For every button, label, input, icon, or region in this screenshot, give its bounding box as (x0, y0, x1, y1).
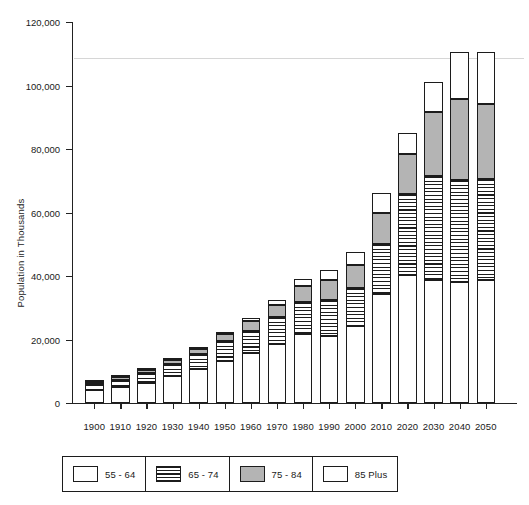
legend-label: 55 - 64 (105, 469, 135, 480)
bar-segment-1990-55-64 (320, 336, 339, 403)
x-tick-label: 1910 (110, 421, 132, 432)
plot-area: 020,00040,00060,00080,000100,000120,000 … (72, 22, 517, 403)
x-tick-label: 2010 (371, 421, 393, 432)
bar-2020 (398, 133, 417, 403)
y-tick (66, 22, 72, 23)
bar-segment-2000-65-74 (346, 288, 365, 326)
bar-segment-1940-65-74 (189, 354, 208, 369)
bar-segment-2000-55-64 (346, 326, 365, 403)
x-tick-label: 1900 (83, 421, 105, 432)
bar-segment-1990-85Plus (320, 270, 339, 280)
bar-segment-2030-55-64 (424, 280, 443, 403)
x-tick-label: 2050 (475, 421, 497, 432)
legend-swatch-icon (240, 466, 265, 482)
bar-segment-1970-55-64 (268, 344, 287, 403)
bar-segment-2000-85Plus (346, 252, 365, 265)
x-tick (381, 403, 382, 409)
bar-segment-1900-55-64 (85, 390, 104, 403)
bar-1940 (189, 347, 208, 403)
bar-segment-1910-85Plus (111, 375, 130, 377)
bar-1960 (242, 318, 261, 403)
legend-item-85Plus[interactable]: 85 Plus (313, 457, 397, 491)
legend-item-75-84[interactable]: 75 - 84 (230, 457, 313, 491)
bar-segment-1950-55-64 (216, 361, 235, 403)
x-tick (460, 403, 461, 409)
bar-segment-2000-75-84 (346, 265, 365, 288)
x-tick (486, 403, 487, 409)
bar-segment-2020-85Plus (398, 133, 417, 155)
x-tick-label: 1970 (266, 421, 288, 432)
bar-1910 (111, 376, 130, 403)
x-tick-label: 1980 (292, 421, 314, 432)
bar-segment-1920-75-84 (137, 370, 156, 373)
x-tick (199, 403, 200, 409)
chart-root: 020,00040,00060,00080,000100,000120,000 … (0, 0, 529, 505)
bar-segment-1900-85Plus (85, 380, 104, 382)
bar-segment-1930-55-64 (163, 376, 182, 403)
bar-segment-2010-85Plus (372, 193, 391, 212)
x-tick (120, 403, 121, 409)
x-tick (277, 403, 278, 409)
bar-segment-2020-65-74 (398, 194, 417, 275)
y-tick (66, 213, 72, 214)
legend-swatch-icon (73, 466, 98, 482)
bar-segment-1930-65-74 (163, 364, 182, 376)
x-tick-label: 1960 (240, 421, 262, 432)
y-tick-label: 20,000 (31, 334, 60, 345)
bar-1980 (294, 279, 313, 403)
bar-1900 (85, 381, 104, 403)
legend-label: 65 - 74 (188, 469, 218, 480)
bar-segment-2050-75-84 (477, 104, 496, 179)
bar-1970 (268, 300, 287, 403)
x-tick-label: 2020 (397, 421, 419, 432)
bar-segment-1900-75-84 (85, 382, 104, 384)
x-tick (329, 403, 330, 409)
bar-segment-2010-55-64 (372, 294, 391, 403)
bar-segment-2010-65-74 (372, 244, 391, 294)
bar-segment-1970-85Plus (268, 300, 287, 304)
bar-segment-1980-65-74 (294, 302, 313, 334)
bar-2000 (346, 252, 365, 403)
bar-1930 (163, 358, 182, 403)
bar-segment-1990-75-84 (320, 280, 339, 301)
legend-item-65-74[interactable]: 65 - 74 (146, 457, 229, 491)
bar-segment-1980-75-84 (294, 286, 313, 302)
y-tick (66, 340, 72, 341)
bar-segment-1910-55-64 (111, 387, 130, 403)
x-tick (225, 403, 226, 409)
bar-segment-1970-75-84 (268, 305, 287, 317)
bar-1920 (137, 369, 156, 403)
y-tick-label: 0 (55, 398, 60, 409)
y-tick-label: 40,000 (31, 271, 60, 282)
bar-segment-1980-85Plus (294, 279, 313, 286)
x-tick-label: 1930 (162, 421, 184, 432)
bar-segment-2030-85Plus (424, 82, 443, 112)
bar-segment-1970-65-74 (268, 317, 287, 344)
x-tick (407, 403, 408, 409)
chart-legend: 55 - 6465 - 7475 - 8485 Plus (62, 456, 398, 492)
bar-segment-1910-65-74 (111, 380, 130, 388)
y-tick-label: 100,000 (26, 80, 60, 91)
bar-segment-1940-85Plus (189, 347, 208, 349)
legend-item-55-64[interactable]: 55 - 64 (63, 457, 146, 491)
bar-segment-2040-85Plus (450, 52, 469, 100)
bar-2050 (477, 52, 496, 403)
bar-segment-2050-85Plus (477, 52, 496, 104)
x-tick-label: 2000 (344, 421, 366, 432)
bar-segment-1920-55-64 (137, 383, 156, 403)
x-tick (94, 403, 95, 409)
bar-segment-2050-65-74 (477, 179, 496, 280)
x-tick (434, 403, 435, 409)
y-tick (66, 86, 72, 87)
x-tick (303, 403, 304, 409)
y-tick-label: 80,000 (31, 144, 60, 155)
bar-segment-1960-65-74 (242, 331, 261, 354)
x-tick-label: 1940 (188, 421, 210, 432)
y-tick (66, 403, 72, 404)
bar-segment-2050-55-64 (477, 280, 496, 403)
legend-swatch-icon (323, 466, 348, 482)
x-axis-line (72, 403, 517, 404)
legend-label: 75 - 84 (272, 469, 302, 480)
bar-2030 (424, 82, 443, 403)
bar-1990 (320, 270, 339, 403)
